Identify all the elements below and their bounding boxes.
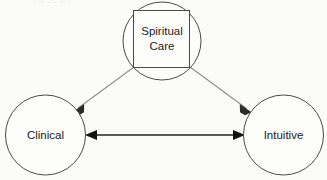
connector-spiritual-to-intuitive-line	[190, 67, 247, 109]
connector-spiritual-to-clinical	[73, 67, 135, 115]
connector-clinical-intuitive	[85, 130, 245, 140]
clinical-label: Clinical	[27, 129, 64, 141]
spiritual-care-label-line2: Care	[150, 40, 175, 52]
spiritual-care-box[interactable]	[134, 11, 190, 68]
node-clinical[interactable]: Clinical	[6, 95, 86, 175]
diagram-canvas: · · · · · · Clinical Intuitive	[0, 0, 327, 180]
spiritual-care-label-line1: Spiritual	[141, 25, 183, 37]
connector-spiritual-to-clinical-line	[78, 67, 135, 109]
node-spiritual-care[interactable]: Spiritual Care	[123, 2, 201, 80]
arrowhead-left	[85, 130, 97, 140]
intuitive-label: Intuitive	[264, 129, 304, 141]
node-intuitive[interactable]: Intuitive	[244, 95, 324, 175]
diagram-svg: Clinical Intuitive Spiritual Care	[0, 0, 327, 180]
connector-spiritual-to-intuitive	[190, 67, 252, 115]
